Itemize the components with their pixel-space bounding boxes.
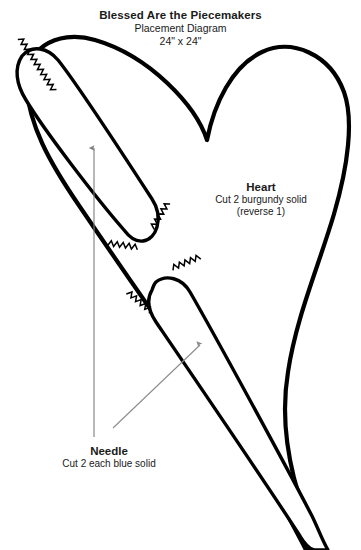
- needle-label-block: Needle Cut 2 each blue solid: [25, 444, 193, 470]
- finished-size: 24" x 24": [0, 35, 361, 48]
- page-subtitle: Placement Diagram: [0, 22, 361, 35]
- title-block: Blessed Are the Piecemakers Placement Di…: [0, 8, 361, 48]
- leader-line-needle-label: [113, 345, 200, 428]
- placement-diagram: Blessed Are the Piecemakers Placement Di…: [0, 0, 361, 550]
- needle-label-instruction: Cut 2 each blue solid: [25, 458, 193, 470]
- page-title: Blessed Are the Piecemakers: [0, 8, 361, 22]
- needle-label-name: Needle: [25, 444, 193, 458]
- heart-label-note: (reverse 1): [185, 206, 337, 218]
- heart-label-name: Heart: [185, 180, 337, 194]
- heart-label-block: Heart Cut 2 burgundy solid (reverse 1): [185, 180, 337, 218]
- heart-label-instruction: Cut 2 burgundy solid: [185, 194, 337, 206]
